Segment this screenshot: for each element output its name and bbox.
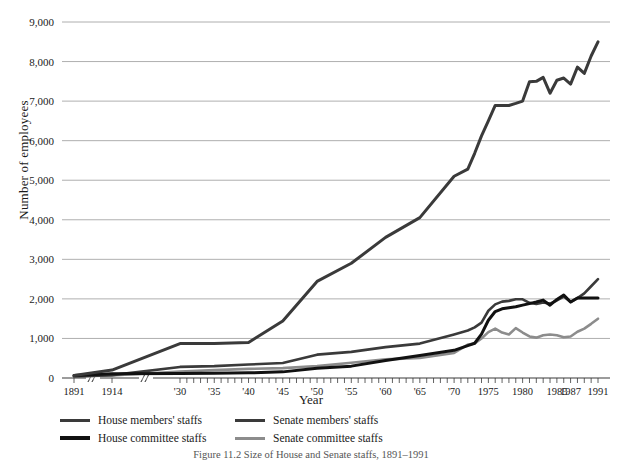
data-series-line: [74, 42, 598, 376]
y-axis-tick-label: 6,000: [29, 135, 54, 147]
legend-swatch: [235, 437, 265, 440]
data-series-line: [74, 279, 598, 376]
y-axis-tick-label: 7,000: [29, 95, 54, 107]
legend-item[interactable]: Senate committee staffs: [235, 430, 383, 446]
y-axis-tick-label: 4,000: [29, 214, 54, 226]
legend-item[interactable]: Senate members' staffs: [235, 412, 383, 428]
legend-item[interactable]: House committee staffs: [60, 430, 206, 446]
legend-swatch: [60, 419, 90, 422]
y-axis-tick-label: 5,000: [29, 174, 54, 186]
legend-item-label: Senate members' staffs: [273, 414, 378, 426]
figure-caption: Figure 11.2 Size of House and Senate sta…: [0, 449, 622, 460]
y-axis-tick-label: 8,000: [29, 56, 54, 68]
line-chart: 01,0002,0003,0004,0005,0006,0007,0008,00…: [0, 0, 622, 400]
y-axis-tick-label: 2,000: [29, 293, 54, 305]
plot-area: 01,0002,0003,0004,0005,0006,0007,0008,00…: [0, 0, 622, 400]
y-axis-tick-label: 1,000: [29, 332, 54, 344]
legend-item-label: House committee staffs: [98, 432, 206, 444]
legend-item-label: House members' staffs: [98, 414, 202, 426]
legend-swatch: [60, 436, 90, 440]
x-axis-label: Year: [0, 392, 622, 408]
y-axis-label: Number of employees: [16, 90, 32, 230]
legend-item[interactable]: House members' staffs: [60, 412, 206, 428]
y-axis-tick-label: 0: [49, 372, 55, 384]
legend-column-left: House members' staffs House committee st…: [60, 412, 206, 448]
chart-legend: House members' staffs House committee st…: [0, 412, 622, 444]
legend-column-right: Senate members' staffs Senate committee …: [235, 412, 383, 448]
y-axis-tick-label: 9,000: [29, 16, 54, 28]
legend-swatch: [235, 419, 265, 422]
legend-item-label: Senate committee staffs: [273, 432, 383, 444]
y-axis-tick-label: 3,000: [29, 253, 54, 265]
